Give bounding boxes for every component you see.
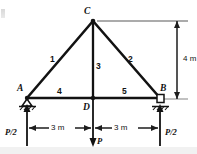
page-footer-band (0, 147, 197, 154)
force-reaction-right (157, 104, 164, 146)
force-reaction-left (24, 104, 31, 146)
force-label-reaction-right: P/2 (165, 128, 177, 137)
force-applied-load (90, 99, 97, 147)
dimension-height-4m (174, 21, 180, 99)
node-label-B: B (160, 84, 166, 94)
member-label-1: 1 (50, 55, 55, 64)
member-label-4: 4 (57, 87, 62, 96)
force-label-reaction-left: P/2 (5, 128, 17, 137)
member-label-5: 5 (122, 87, 127, 96)
member-label-3: 3 (96, 62, 101, 71)
dimension-label-span-left: 3 m (51, 124, 64, 132)
dimension-label-height: 4 m (183, 55, 196, 63)
node-label-C: C (84, 7, 90, 17)
dimension-label-span-right: 3 m (114, 124, 127, 132)
node-label-A: A (17, 84, 23, 94)
joint-C (91, 19, 96, 24)
node-label-D: D (83, 103, 90, 113)
member-label-2: 2 (128, 55, 133, 64)
force-label-applied-load: P (97, 137, 102, 146)
